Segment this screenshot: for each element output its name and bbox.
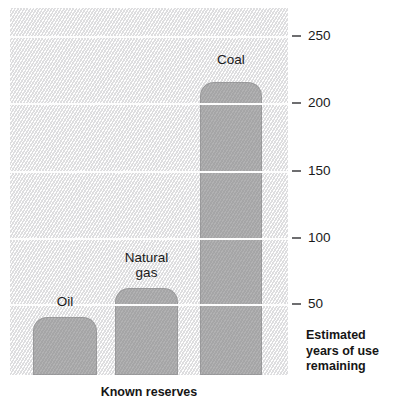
- gridline-200: [10, 103, 288, 105]
- bar-natural-gas[interactable]: [115, 288, 178, 375]
- tick-label-200: 200: [308, 96, 331, 110]
- bar-coal[interactable]: [200, 82, 262, 375]
- gridline-150: [10, 171, 288, 173]
- gridline-100: [10, 238, 288, 240]
- tick-label-100: 100: [308, 231, 331, 245]
- tick-mark-250: [292, 35, 301, 37]
- gridline-250: [10, 36, 288, 38]
- tick-label-150: 150: [308, 164, 331, 178]
- tick-mark-150: [292, 170, 301, 172]
- bar-chart: Oil Natural gas Coal 250 200 150 100 50 …: [0, 0, 401, 410]
- tick-label-250: 250: [308, 29, 331, 43]
- x-axis-caption: Known reserves: [10, 385, 288, 399]
- y-axis-caption: Estimated years of use remaining: [306, 328, 401, 375]
- tick-mark-50: [292, 303, 301, 305]
- bar-label-oil: Oil: [33, 294, 97, 309]
- tick-mark-200: [292, 102, 301, 104]
- bar-oil[interactable]: [33, 317, 97, 375]
- plot-area: Oil Natural gas Coal: [10, 8, 288, 375]
- bar-label-natural-gas: Natural gas: [107, 250, 186, 280]
- tick-label-50: 50: [308, 297, 323, 311]
- bar-label-coal: Coal: [200, 52, 262, 67]
- tick-mark-100: [292, 237, 301, 239]
